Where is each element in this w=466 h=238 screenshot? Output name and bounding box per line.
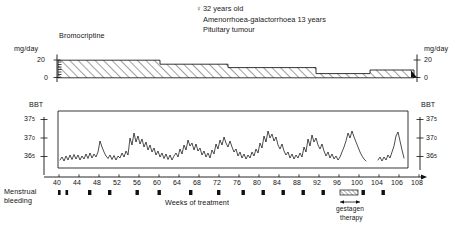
bbt-axis-right [417, 117, 424, 170]
menstrual-bleeding-label-line2: bleeding [4, 197, 32, 205]
x-tick-label: 80 [253, 179, 261, 187]
x-tick-label: 56 [133, 179, 141, 187]
x-tick-label: 44 [73, 179, 81, 187]
x-tick-label: 88 [293, 179, 301, 187]
dose-tick-right-20: 20 [424, 56, 432, 64]
menstrual-bleeding-markers [58, 190, 385, 195]
dose-axis-right [414, 55, 421, 83]
dose-tick-right-0: 0 [424, 74, 428, 82]
x-tick-label: 92 [313, 179, 321, 187]
gestagen-therapy-label-line1: gestagen [336, 205, 364, 213]
bbt-tick-left-370: 370 [24, 134, 35, 142]
bbt-curve [60, 131, 404, 161]
x-tick-label: 104 [371, 179, 383, 187]
patient-age: 32 years old [203, 4, 243, 13]
gestagen-therapy-label-line2: therapy [340, 214, 363, 222]
x-tick-label: 68 [193, 179, 201, 187]
x-tick-label: 40 [53, 179, 61, 187]
patient-header-line-2: Amenorrhoea-galactorrhoea 13 years [196, 15, 326, 26]
x-tick-label: 72 [213, 179, 221, 187]
x-tick-label: 106 [391, 179, 403, 187]
patient-header: ♀32 years old Amenorrhoea-galactorrhoea … [196, 4, 326, 36]
bbt-axis-left [41, 117, 48, 175]
patient-header-line-3: Pituitary tumour [196, 25, 326, 36]
x-tick-label: 52 [113, 179, 121, 187]
chart-figure: ♀32 years old Amenorrhoea-galactorrhoea … [0, 0, 466, 238]
x-tick-label: 64 [173, 179, 181, 187]
gestagen-therapy-bar [340, 190, 360, 204]
bbt-tick-right-365: 365 [426, 152, 437, 160]
x-axis-title: Weeks of treatment [165, 199, 229, 207]
bbt-tick-left-375: 375 [24, 115, 35, 123]
x-tick-label: 76 [233, 179, 241, 187]
bbt-tick-right-370: 370 [426, 134, 437, 142]
bbt-tick-right-375: 375 [426, 115, 437, 123]
dose-unit-left: mg/day [14, 45, 38, 53]
x-tick-label: 60 [153, 179, 161, 187]
bbt-title-right: BBT [421, 101, 435, 109]
x-tick-label: 84 [273, 179, 281, 187]
x-tick-label: 100 [351, 179, 363, 187]
bbt-title-left: BBT [29, 101, 43, 109]
female-symbol-icon: ♀ [196, 4, 203, 15]
dose-panel-title: Bromocriptine [59, 32, 105, 40]
patient-header-line-1: ♀32 years old [196, 4, 326, 15]
dose-unit-right: mg/day [424, 45, 448, 53]
bbt-tick-left-365: 365 [24, 152, 35, 160]
x-tick-label: 108 [411, 179, 423, 187]
bromocriptine-dose-area [58, 60, 417, 78]
dose-tick-left-20: 20 [37, 56, 45, 64]
x-tick-label: 96 [333, 179, 341, 187]
x-tick-label: 48 [93, 179, 101, 187]
dose-tick-left-0: 0 [44, 74, 48, 82]
bbt-panel-frame [58, 111, 408, 168]
